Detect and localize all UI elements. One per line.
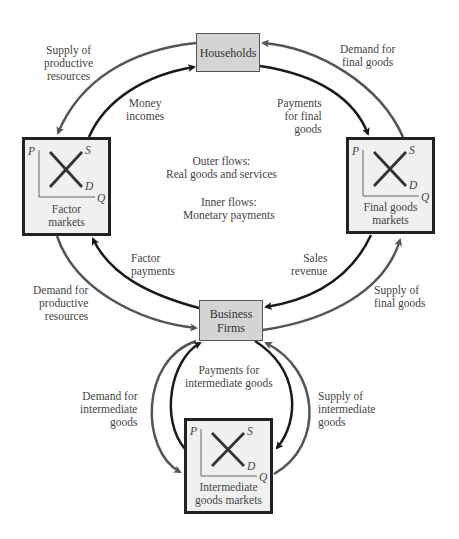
households-label: Households [200,46,257,60]
label-demand-final: Demand for final goods [340,43,395,69]
label-demand-productive: Demand for productive resources [33,284,88,323]
line: intermediate goods [185,377,273,390]
intermediate-goods-markets-box: P S D Q Intermediate goods markets [184,418,273,514]
line: Real goods and services [166,168,277,181]
label-supply-productive: Supply of productive resources [44,44,93,83]
legend-outer-flows: Outer flows: Real goods and services [166,155,277,181]
demand-label: D [409,179,417,192]
line: Money [126,97,164,110]
line: goods [80,416,137,429]
line: Sales [291,252,327,265]
line: Payments [277,97,322,110]
line: for final [277,110,322,123]
line: resources [44,70,93,83]
line: incomes [126,110,164,123]
line: Demand for [340,43,395,56]
final-goods-markets-box: P S D Q Final goods markets [346,137,435,234]
line: productive [33,297,88,310]
line: final goods [340,56,395,69]
business-firms-node: Business Firms [199,300,263,341]
caption-line1: Factor [25,203,108,216]
label-supply-intermediate: Supply of intermediate goods [318,390,375,429]
line: Outer flows: [166,155,277,168]
line: goods [318,416,375,429]
line: resources [33,310,88,323]
line: goods [277,123,322,136]
axis-p-label: P [28,145,35,158]
line: Demand for [80,390,137,403]
line: Supply of [44,44,93,57]
demand-label: D [247,460,255,473]
label-money-incomes: Money incomes [126,97,164,123]
line: Supply of [374,284,425,297]
line: Supply of [318,390,375,403]
line: Payments for [185,364,273,377]
caption-line2: markets [25,216,108,229]
caption-line2: goods markets [187,494,270,507]
line: Inner flows: [183,196,275,209]
axis-p-label: P [190,425,197,438]
line: intermediate [318,403,375,416]
households-node: Households [196,33,260,72]
business-firms-label-line2: Firms [217,321,245,335]
line: Factor [131,252,175,265]
axis-p-label: P [352,145,359,158]
line: payments [131,265,175,278]
line: revenue [291,265,327,278]
business-firms-label-line1: Business [210,307,253,321]
label-factor-payments: Factor payments [131,252,175,278]
label-payments-final: Payments for final goods [277,97,322,136]
line: intermediate [80,403,137,416]
label-demand-intermediate: Demand for intermediate goods [80,390,137,429]
intermediate-goods-markets-caption: Intermediate goods markets [187,481,270,507]
line: Monetary payments [183,209,275,222]
line: productive [44,57,93,70]
line: Demand for [33,284,88,297]
caption-line1: Final goods [349,201,432,214]
line: final goods [374,297,425,310]
supply-label: S [247,425,253,438]
demand-label: D [85,180,93,193]
label-supply-final: Supply of final goods [374,284,425,310]
supply-label: S [85,144,91,157]
caption-line1: Intermediate [187,481,270,494]
caption-line2: markets [349,214,432,227]
factor-markets-box: P S D Q Factor markets [22,137,111,236]
factor-markets-caption: Factor markets [25,203,108,229]
legend-inner-flows: Inner flows: Monetary payments [183,196,275,222]
label-payments-intermediate: Payments for intermediate goods [185,364,273,390]
supply-label: S [409,144,415,157]
label-sales-revenue: Sales revenue [291,252,327,278]
final-goods-markets-caption: Final goods markets [349,201,432,227]
